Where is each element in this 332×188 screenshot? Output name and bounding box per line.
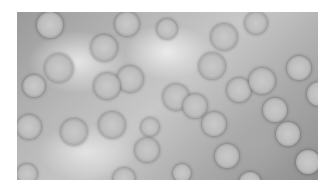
particle [183, 94, 207, 118]
particle [263, 98, 287, 122]
particle [239, 172, 261, 180]
particle [113, 168, 135, 180]
particle [37, 12, 63, 38]
particle [117, 66, 143, 92]
particle [296, 150, 318, 174]
particle [173, 164, 191, 180]
particle [99, 112, 125, 138]
particle [115, 12, 139, 36]
particle [307, 82, 318, 106]
particle [211, 24, 237, 50]
particle [227, 78, 251, 102]
particle [17, 164, 37, 180]
particle [276, 122, 300, 146]
particle [215, 144, 239, 168]
particle [94, 73, 120, 99]
particle [249, 68, 275, 94]
particle [45, 54, 73, 82]
particle [199, 53, 225, 79]
particle [157, 19, 177, 39]
particle [91, 35, 117, 61]
particle [23, 75, 45, 97]
particle [61, 119, 87, 145]
particle [202, 112, 226, 136]
micrograph-image [17, 12, 318, 180]
particle [141, 118, 159, 136]
particle [135, 138, 159, 162]
particle [245, 12, 267, 34]
particle [287, 56, 311, 80]
particle [17, 115, 41, 139]
